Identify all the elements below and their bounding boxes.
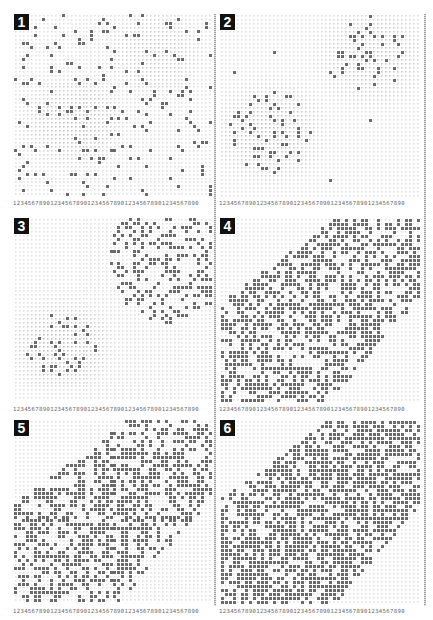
- row-ruler-left: [214, 14, 216, 606]
- dot-grid-3: [14, 218, 212, 404]
- panel-label-5: 5: [14, 420, 29, 436]
- column-ruler-4: 1234567890123456789012345678901234567890…: [219, 406, 405, 412]
- panel-label-1: 1: [14, 14, 29, 30]
- panel-3: 3: [14, 218, 212, 404]
- column-ruler-6: 1234567890123456789012345678901234567890…: [219, 608, 405, 614]
- panel-1: 1: [14, 14, 212, 200]
- panel-5: 5: [14, 420, 212, 606]
- row-ruler-right: [424, 14, 426, 606]
- dot-grid-5: [14, 420, 212, 606]
- panel-label-2: 2: [220, 14, 235, 30]
- dot-grid-1: [14, 14, 212, 200]
- column-ruler-1: 1234567890123456789012345678901234567890…: [13, 200, 199, 206]
- panel-label-6: 6: [220, 420, 235, 436]
- panel-label-4: 4: [220, 218, 235, 234]
- dot-grid-4: [220, 218, 420, 404]
- panel-6: 6: [220, 420, 420, 606]
- panel-2: 2: [220, 14, 420, 200]
- dot-grid-6: [220, 420, 420, 606]
- panel-4: 4: [220, 218, 420, 404]
- column-ruler-3: 1234567890123456789012345678901234567890…: [13, 406, 199, 412]
- column-ruler-2: 1234567890123456789012345678901234567890…: [219, 200, 405, 206]
- column-ruler-5: 1234567890123456789012345678901234567890…: [13, 608, 199, 614]
- panel-label-3: 3: [14, 218, 29, 234]
- dot-grid-2: [220, 14, 420, 200]
